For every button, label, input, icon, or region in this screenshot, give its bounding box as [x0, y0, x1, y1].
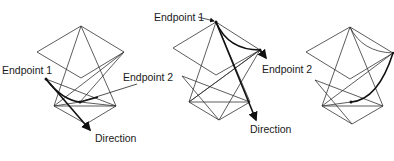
direction-line — [216, 22, 256, 120]
wireframe — [173, 22, 260, 120]
figure-3 — [306, 27, 394, 124]
diagram-canvas: Endpoint 1 Endpoint 2 Direction Endpoint… — [0, 0, 394, 161]
endpoint1-label: Endpoint 1 — [154, 11, 204, 23]
direction-line — [46, 79, 90, 130]
figure-2: Endpoint 1 Endpoint 2 Direction — [154, 11, 312, 135]
endpoint2-leader — [80, 84, 137, 102]
endpoint1-label: Endpoint 1 — [2, 64, 52, 76]
endpoint2-label: Endpoint 2 — [262, 63, 312, 75]
curve-bottom — [351, 53, 393, 102]
endpoint2-label: Endpoint 2 — [123, 71, 173, 83]
direction-label: Direction — [250, 123, 292, 135]
figure-1: Endpoint 1 Endpoint 2 Direction — [2, 26, 173, 144]
wireframe — [306, 27, 393, 124]
direction-label: Direction — [95, 132, 137, 144]
